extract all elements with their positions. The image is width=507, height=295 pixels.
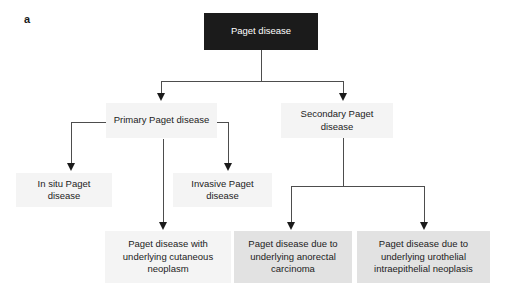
node-paget-disease: Paget disease [204,13,318,50]
node-paget-disease-label: Paget disease [208,25,314,38]
connector-secondary-crossbar [291,186,425,187]
node-invasive-paget-disease-label: Invasive Paget disease [177,178,268,203]
node-cutaneous-neoplasm: Paget disease with underlying cutaneous … [105,231,231,283]
node-anorectal-carcinoma-label: Paget disease due to underlying anorecta… [238,238,348,276]
arrow-primary-to-cutaneous-icon [159,222,167,230]
node-primary-paget-disease-label: Primary Paget disease [110,114,213,127]
node-urothelial-neoplasis-label: Paget disease due to underlying urotheli… [361,238,486,276]
panel-label: a [24,13,30,25]
connector-secondary-to-anorectal [291,186,292,223]
connector-primary-to-cutaneous [163,139,164,223]
flowchart-figure: a Paget disease Primary Paget disease Se… [0,0,507,295]
arrow-primary-to-insitu-icon [67,163,75,171]
node-primary-paget-disease: Primary Paget disease [106,103,217,138]
arrow-primary-to-invasive-icon [224,163,232,171]
node-secondary-paget-disease: Secondary Paget disease [281,103,393,138]
node-invasive-paget-disease: Invasive Paget disease [173,173,272,207]
connector-primary-to-insitu [71,122,72,164]
connector-secondary-trunk [343,138,344,187]
node-in-situ-paget-disease-label: In situ Paget disease [20,178,108,203]
node-anorectal-carcinoma: Paget disease due to underlying anorecta… [234,231,352,283]
node-cutaneous-neoplasm-label: Paget disease with underlying cutaneous … [109,238,227,276]
connector-root-crossbar [161,81,343,82]
arrow-secondary-to-anorectal-icon [287,222,295,230]
node-urothelial-neoplasis: Paget disease due to underlying urotheli… [357,231,490,283]
connector-primary-to-invasive [228,122,229,164]
node-in-situ-paget-disease: In situ Paget disease [16,173,112,207]
arrow-root-to-secondary-icon [339,93,347,101]
arrow-root-to-primary-icon [157,93,165,101]
connector-root-trunk [261,50,262,82]
connector-secondary-to-urothelial [424,186,425,223]
arrow-secondary-to-urothelial-icon [420,222,428,230]
node-secondary-paget-disease-label: Secondary Paget disease [285,108,389,133]
